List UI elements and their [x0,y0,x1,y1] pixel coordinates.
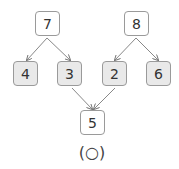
node-6: 6 [146,61,171,86]
node-value: 8 [132,16,141,32]
node-value: 7 [43,16,52,32]
node-3: 3 [57,61,82,86]
node-value: 6 [154,66,163,82]
node-value: 3 [65,66,74,82]
node-value: 2 [110,66,119,82]
node-7: 7 [35,11,60,36]
node-value: 4 [21,66,30,82]
node-5: 5 [80,110,105,135]
node-4: 4 [13,61,38,86]
node-value: 5 [88,115,97,131]
node-2: 2 [102,61,127,86]
node-8: 8 [124,11,149,36]
answer-caption: (○) [0,143,179,162]
